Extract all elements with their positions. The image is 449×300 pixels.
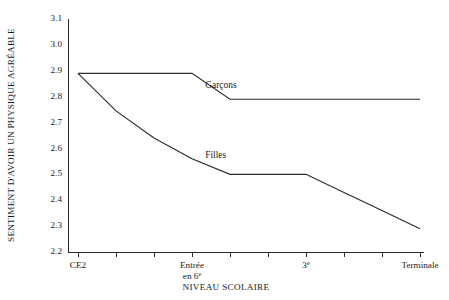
- x-tick-label: 3e: [302, 259, 310, 270]
- data-series-group: [78, 73, 420, 228]
- series-label-filles: Filles: [205, 150, 226, 160]
- chart-axes: [68, 19, 424, 252]
- x-tick-label-line2: en 6e: [183, 270, 202, 281]
- x-tick-label: Terminale: [401, 260, 438, 270]
- y-tick-label: 2.9: [51, 65, 63, 75]
- y-tick-label: 2.2: [51, 246, 63, 256]
- y-tick-label: 2.6: [51, 143, 63, 153]
- y-tick-label: 3.0: [51, 39, 63, 49]
- y-tick-label: 2.4: [51, 194, 63, 204]
- x-axis-title: NIVEAU SCOLAIRE: [183, 282, 270, 292]
- y-axis-title: SENTIMENT D'AVOIR UN PHYSIQUE AGRÉABLE: [6, 28, 16, 242]
- y-tick-label: 2.8: [51, 91, 63, 101]
- y-tick-label: 2.3: [51, 220, 63, 230]
- y-axis-tick-labels: 3.13.02.92.82.72.62.52.42.32.2: [51, 13, 63, 256]
- x-tick-label: CE2: [70, 260, 87, 270]
- x-tick-label: Entrée: [180, 260, 204, 270]
- x-axis-tick-labels: CE2Entréeen 6e3eTerminale: [70, 259, 439, 281]
- line-chart: 3.13.02.92.82.72.62.52.42.32.2 GarçonsFi…: [0, 0, 449, 300]
- series-inline-labels: GarçonsFilles: [205, 80, 237, 160]
- chart-container: 3.13.02.92.82.72.62.52.42.32.2 GarçonsFi…: [0, 0, 449, 300]
- series-line-garons: [78, 73, 420, 99]
- series-line-filles: [78, 73, 420, 228]
- x-axis-ticks: [78, 252, 420, 257]
- y-tick-label: 3.1: [51, 13, 63, 23]
- y-tick-label: 2.5: [51, 168, 63, 178]
- y-tick-label: 2.7: [51, 117, 63, 127]
- series-label-garons: Garçons: [205, 80, 237, 90]
